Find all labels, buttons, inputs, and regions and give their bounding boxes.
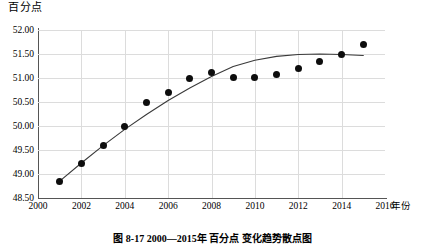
x-tick-label: 2002: [61, 201, 101, 212]
x-axis-title: 年份: [391, 201, 411, 212]
trend-curve: [38, 30, 385, 198]
x-tick-label: 2006: [148, 201, 188, 212]
x-tick-label: 2014: [322, 201, 362, 212]
data-point: [360, 41, 367, 48]
data-point: [186, 75, 193, 82]
y-tick-label: 51.50: [0, 49, 34, 59]
x-tick-label: 2004: [105, 201, 145, 212]
x-axis-line: [38, 198, 387, 199]
y-tick-label: 52.00: [0, 25, 34, 35]
y-tick-label: 50.00: [0, 121, 34, 131]
data-point: [121, 123, 128, 130]
data-point: [100, 142, 107, 149]
y-tick-label: 51.00: [0, 73, 34, 83]
figure-caption: 图 8-17 2000—2015年 百分点 变化趋势散点图: [0, 233, 425, 245]
x-tick-label: 2010: [235, 201, 275, 212]
x-tick-label: 2008: [192, 201, 232, 212]
data-point: [208, 69, 215, 76]
data-point: [230, 74, 237, 81]
y-tick-label: 49.50: [0, 145, 34, 155]
y-tick-label: 50.50: [0, 97, 34, 107]
x-tick-label: 2000: [18, 201, 58, 212]
data-point: [165, 89, 172, 96]
y-axis-title: 百分点: [8, 1, 43, 14]
data-point: [295, 65, 302, 72]
data-point: [56, 178, 63, 185]
figure-container: 百分点 48.5049.0049.5050.0050.5051.0051.505…: [0, 0, 425, 245]
plot-area: [38, 30, 385, 198]
x-tick-label: 2012: [278, 201, 318, 212]
y-tick-label: 49.00: [0, 169, 34, 179]
